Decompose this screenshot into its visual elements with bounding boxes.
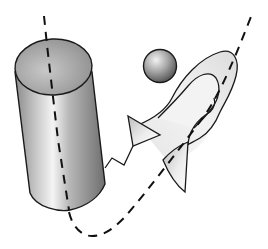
diagram-canvas: Illustration of geometric 3D objects lin… [0,0,268,249]
sphere [144,50,177,83]
cylinder [14,37,105,210]
zigzag-connector [105,146,133,168]
diagram-svg [0,0,268,249]
